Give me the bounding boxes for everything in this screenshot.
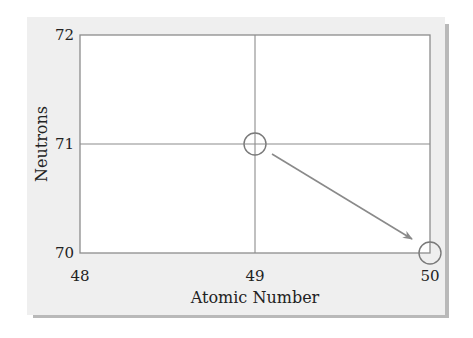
x-axis-label: Atomic Number — [190, 288, 320, 307]
y-axis-label: Neutrons — [32, 106, 51, 182]
y-tick-70: 70 — [55, 244, 74, 262]
x-tick-48: 48 — [70, 267, 89, 285]
y-tick-72: 72 — [55, 26, 74, 44]
y-tick-71: 71 — [55, 135, 74, 153]
x-tick-49: 49 — [245, 267, 264, 285]
chart-svg: 72 71 70 48 49 50 Atomic Number Neutrons — [0, 0, 473, 338]
x-tick-50: 50 — [420, 267, 439, 285]
